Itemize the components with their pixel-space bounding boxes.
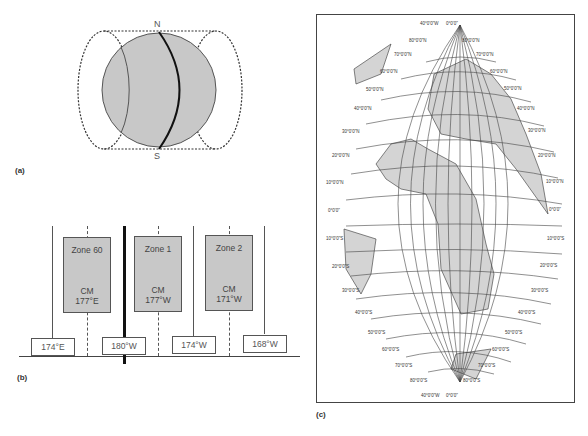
- lat-label-60n-left: 60°0'0"N: [380, 69, 398, 74]
- north-pole-label: N: [154, 19, 161, 29]
- south-pole-label: S: [154, 151, 160, 161]
- boundary-line-174e: [52, 226, 53, 338]
- central-meridian: CM171°W: [206, 284, 252, 304]
- apex-top-label-right: 0°0'0": [446, 21, 458, 26]
- apex-top-label-left: 40°0'0"W: [420, 21, 439, 26]
- panel-a-label: (a): [15, 166, 25, 175]
- panel-c-label: (c): [316, 410, 326, 419]
- panel-a: N S (a): [0, 0, 300, 200]
- panel-c: 40°0'0"W 0°0'0" 80°0'0"N 70°0'0"N 60°0'0…: [300, 0, 588, 436]
- lat-label-80s-left: 80°0'0"S: [410, 378, 427, 383]
- boundary-label-180w: 180°W: [102, 337, 146, 355]
- zone-2-box: Zone 2 CM171°W: [205, 235, 253, 311]
- zone-60-box: Zone 60 CM177°E: [63, 237, 111, 313]
- zone-name: Zone 60: [64, 245, 110, 255]
- baseline: [19, 356, 300, 357]
- lat-label-10n-right: 10°0'0"N: [546, 179, 564, 184]
- lat-label-20s-right: 20°0'0"S: [540, 263, 557, 268]
- lat-label-30n-left: 30°0'0"N: [342, 129, 360, 134]
- boundary-label-168w: 168°W: [243, 335, 287, 353]
- zone-name: Zone 1: [135, 244, 181, 254]
- lat-label-0-left: 0°0'0": [328, 208, 340, 213]
- lat-label-70s-right: 70°0'0"S: [478, 363, 495, 368]
- lat-label-30n-right: 30°0'0"N: [528, 128, 546, 133]
- lat-label-60n-right: 60°0'0"N: [490, 69, 508, 74]
- panel-b-label: (b): [17, 373, 27, 382]
- lat-label-80n-left: 80°0'0"N: [409, 38, 427, 43]
- lat-label-60s-right: 60°0'0"S: [492, 347, 509, 352]
- lat-label-30s-right: 30°0'0"S: [531, 288, 548, 293]
- zone-name: Zone 2: [206, 243, 252, 253]
- lat-label-10n-left: 10°0'0"N: [326, 180, 344, 185]
- central-meridian: CM177°E: [64, 286, 110, 306]
- lat-label-10s-right: 10°0'0"S: [547, 236, 564, 241]
- lat-label-20n-left: 20°0'0"N: [332, 153, 350, 158]
- lat-label-50n-left: 50°0'0"N: [366, 87, 384, 92]
- lat-label-60s-left: 60°0'0"S: [382, 347, 399, 352]
- boundary-line-168w: [264, 226, 265, 334]
- transverse-mercator-map: [316, 14, 575, 403]
- boundary-line-174w: [193, 226, 194, 336]
- apex-bottom-label-left: 40°0'0"W: [421, 393, 440, 398]
- lat-label-40n-left: 40°0'0"N: [354, 106, 372, 111]
- lat-label-80n-right: 80°0'0"N: [462, 38, 480, 43]
- lat-label-50s-left: 50°0'0"S: [368, 330, 385, 335]
- transverse-cylinder-globe-diagram: [0, 0, 300, 200]
- lat-label-40s-left: 40°0'0"S: [355, 310, 372, 315]
- lat-label-40n-right: 40°0'0"N: [517, 106, 535, 111]
- lat-label-40s-right: 40°0'0"S: [518, 310, 535, 315]
- lat-label-70n-left: 70°0'0"N: [394, 52, 412, 57]
- lat-label-20s-left: 20°0'0"S: [332, 264, 349, 269]
- lat-label-50n-right: 50°0'0"N: [504, 86, 522, 91]
- lat-label-30s-left: 30°0'0"S: [342, 288, 359, 293]
- lat-label-20n-right: 20°0'0"N: [538, 153, 556, 158]
- apex-bottom-label-right: 0°0'0": [446, 393, 458, 398]
- lat-label-50s-right: 50°0'0"S: [505, 330, 522, 335]
- lat-label-80s-right: 80°0'0"S: [463, 378, 480, 383]
- central-meridian: CM177°W: [135, 285, 181, 305]
- zone-1-box: Zone 1 CM177°W: [134, 236, 182, 312]
- boundary-label-174w: 174°W: [172, 336, 216, 354]
- lat-label-70n-right: 70°0'0"N: [476, 52, 494, 57]
- boundary-label-174e: 174°E: [31, 338, 75, 356]
- lat-label-70s-left: 70°0'0"S: [395, 363, 412, 368]
- lat-label-0-right: 0°0'0": [549, 207, 561, 212]
- panel-b: Zone 60 CM177°E Zone 1 CM177°W Zone 2 CM…: [0, 230, 310, 430]
- lat-label-10s-left: 10°0'0"S: [326, 236, 343, 241]
